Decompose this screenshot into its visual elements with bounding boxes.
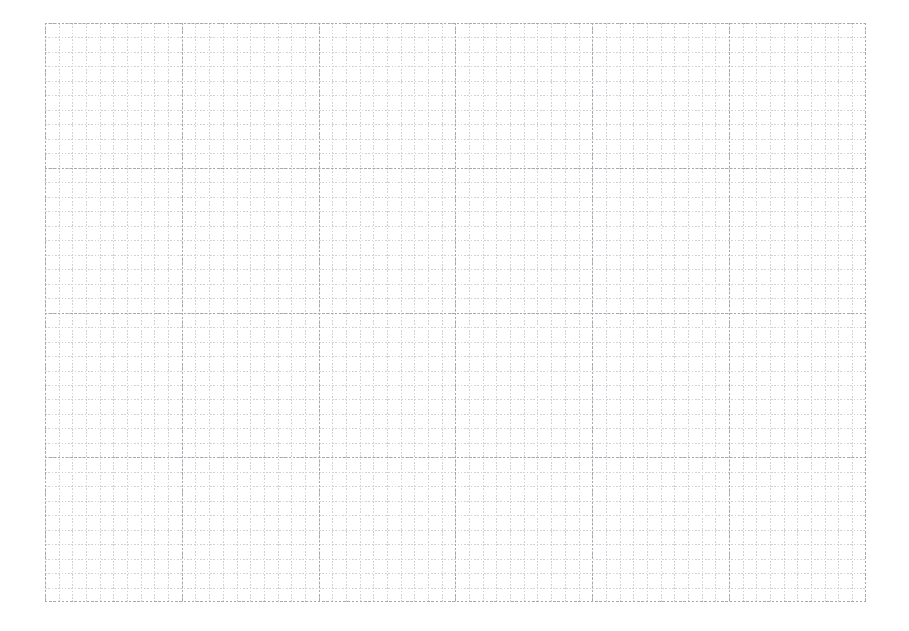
grid-paper-sheet[interactable] (45, 23, 866, 602)
minor-horizontal-gridlines (45, 23, 866, 602)
minor-vertical-gridlines (45, 23, 866, 602)
sheet-bottom-edge-line (45, 601, 866, 602)
sheet-right-edge-line (865, 23, 866, 602)
major-horizontal-gridlines (45, 23, 866, 602)
canvas-root (0, 0, 909, 631)
major-vertical-gridlines (45, 23, 866, 602)
